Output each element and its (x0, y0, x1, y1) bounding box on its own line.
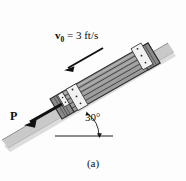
angle-label: 30° (85, 112, 100, 123)
velocity-arrow (64, 48, 103, 72)
force-label-p: P (10, 110, 17, 122)
figure-caption: (a) (0, 158, 186, 169)
figure-drawing (0, 0, 186, 181)
board-bundle (50, 43, 160, 120)
velocity-value-text: = 3 ft/s (64, 29, 98, 41)
velocity-label: v0 = 3 ft/s (55, 30, 98, 44)
figure-container: v0 = 3 ft/s P 30° (a) (0, 0, 186, 181)
